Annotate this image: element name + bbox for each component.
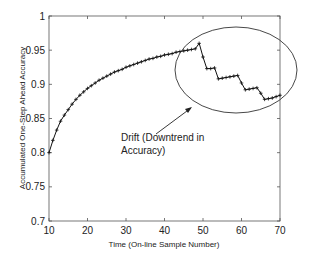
y-tick-label: 0.75 xyxy=(26,181,46,192)
plot-area xyxy=(49,16,280,221)
y-tick-label: 1 xyxy=(39,11,45,22)
annotation-line-2: Accuracy) xyxy=(121,145,165,156)
accuracy-drift-chart: 0.70.750.80.850.90.951 10203040506070 Dr… xyxy=(0,0,312,258)
x-tick-label: 20 xyxy=(82,225,94,236)
x-tick-label: 70 xyxy=(274,225,286,236)
x-tick-label: 40 xyxy=(159,225,171,236)
annotation-line-1: Drift (Downtrend in xyxy=(121,132,204,143)
x-tick-label: 60 xyxy=(236,225,248,236)
x-tick-label: 50 xyxy=(197,225,209,236)
y-tick-label: 0.9 xyxy=(31,79,45,90)
y-tick-label: 0.8 xyxy=(31,147,45,158)
x-tick-label: 10 xyxy=(43,225,55,236)
y-axis-label: Accumulated One-Step Ahead Accuracy xyxy=(18,47,27,189)
y-tick-label: 0.85 xyxy=(26,113,46,124)
x-tick-label: 30 xyxy=(120,225,132,236)
y-tick-label: 0.95 xyxy=(26,45,46,56)
x-axis-label: Time (On-line Sample Number) xyxy=(109,240,220,249)
